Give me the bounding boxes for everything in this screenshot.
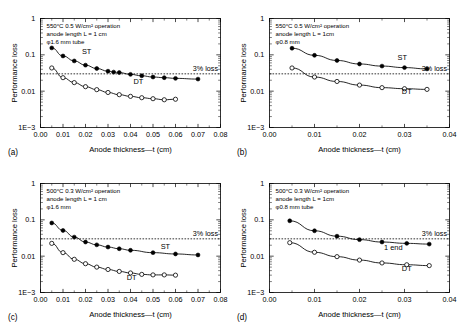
figure-anode-thickness-performance-loss: 0.000.010.020.030.040.050.060.070.0810.1… [0,0,458,330]
data-point [61,251,65,255]
data-point [174,252,178,256]
x-tick-label: 0.08 [214,130,228,139]
y-axis-title: Performance loss [239,43,248,102]
y-tick-label: 0.01 [21,87,35,96]
data-point [106,245,110,249]
data-point [312,75,316,79]
x-tick-label: 0.06 [169,130,183,139]
chart-panel-b: 0.000.010.020.030.0410.10.011E−33% lossS… [229,0,458,165]
data-point [427,242,431,246]
series-label-DT: DT [402,264,412,273]
data-point [290,66,294,70]
series-label-1-end: 1 end [384,243,403,252]
series-label-DT: DT [133,77,143,86]
data-point [72,81,76,85]
data-point [106,267,110,271]
data-point [72,257,76,261]
data-point [425,67,429,71]
data-point [50,66,54,70]
data-point [72,59,76,63]
data-point [106,69,110,73]
annotation-line: anode length L = 1cm [276,195,335,202]
x-axis-title: Anode thickness—t (cm) [318,145,401,154]
y-tick-label: 0.01 [21,252,35,261]
data-point [117,247,121,251]
x-tick-label: 0.05 [146,295,160,304]
y-axis-title: Performance loss [10,43,19,102]
annotation-line: 550°C 0.5 W/cm² operation [276,22,350,29]
data-point [403,66,407,70]
data-point [335,234,339,238]
data-point [151,97,155,101]
plot-b: 0.000.010.020.030.0410.10.011E−33% lossS… [229,0,458,165]
x-tick-label: 0.03 [101,130,115,139]
x-tick-label: 0.07 [191,130,205,139]
data-point [84,63,88,67]
data-point [95,265,99,269]
chart-panel-a: 0.000.010.020.030.040.050.060.070.0810.1… [0,0,229,165]
series-label-ST: ST [161,242,171,251]
data-point [129,72,133,76]
x-axis-title: Anode thickness—t (cm) [89,310,172,319]
annotation-line: 500°C 0.3 W/cm² operation [276,187,350,194]
panel-label: (c) [8,313,18,322]
data-point [61,76,65,80]
annotation-line: anode length L = 1cm [276,30,335,37]
x-tick-label: 0.06 [169,295,183,304]
x-tick-label: 0.08 [214,295,228,304]
series-label-DT: DT [402,87,412,96]
y-tick-label: 1E−3 [247,123,264,132]
data-point [380,261,384,265]
data-point [72,235,76,239]
data-point [357,258,361,262]
y-axis-title: Performance loss [239,208,248,267]
y-tick-label: 0.1 [254,215,264,224]
data-point [50,221,54,225]
y-tick-label: 1 [31,179,35,188]
annotation-line: φ1.6 mm tube [47,38,85,45]
x-tick-label: 0.07 [191,295,205,304]
data-point [83,85,87,89]
data-point [290,46,294,50]
y-tick-label: 1 [31,14,35,23]
annotation-line: 550°C 0.5 W/cm² operation [47,22,121,29]
data-point [358,238,362,242]
data-point [173,273,177,277]
x-tick-label: 0.02 [79,295,93,304]
x-tick-label: 0.02 [353,130,367,139]
annotation-line: anode length L = 1 cm [47,195,107,202]
y-tick-label: 1E−3 [247,288,264,297]
data-point [151,75,155,79]
data-point [335,79,339,83]
series-label-ST: ST [398,53,408,62]
data-point [128,94,132,98]
y-axis-title: Performance loss [10,208,19,267]
data-point [196,253,200,257]
x-tick-label: 0.02 [79,130,93,139]
x-tick-label: 0.00 [34,130,48,139]
data-point [112,70,116,74]
data-point [83,262,87,266]
data-point [427,264,431,268]
series-label-ST: ST [82,47,92,56]
x-tick-label: 0.03 [101,295,115,304]
data-point [425,87,429,91]
x-tick-label: 0.04 [443,130,457,139]
panel-label: (b) [237,148,247,157]
data-point [313,53,317,57]
annotation-line: anode length L = 1 cm [47,30,107,37]
data-point [129,248,133,252]
x-tick-label: 0.03 [398,130,412,139]
threshold-label: 3% loss [422,229,448,238]
data-point [196,77,200,81]
data-point [162,273,166,277]
x-tick-label: 0.00 [263,130,277,139]
x-tick-label: 0.00 [34,295,48,304]
data-point [140,272,144,276]
data-point [95,67,99,71]
data-point [358,62,362,66]
data-point [84,240,88,244]
data-point [380,64,384,68]
data-point [335,59,339,63]
y-tick-label: 0.1 [25,215,35,224]
